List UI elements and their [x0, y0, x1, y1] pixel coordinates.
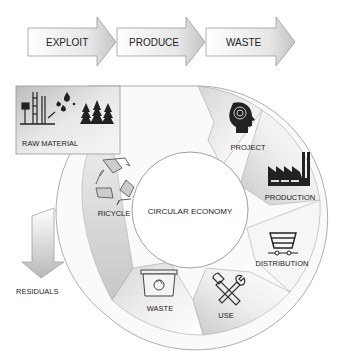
center-label: CIRCULAR ECONOMY [148, 207, 233, 216]
raw-material-box: RAW MATERIAL [16, 86, 120, 154]
process-arrow-label: WASTE [226, 37, 262, 48]
process-arrow-produce: PRODUCE [117, 17, 205, 66]
process-arrow-waste: WASTE [206, 17, 295, 66]
process-arrow-exploit: EXPLOIT [28, 17, 116, 66]
process-arrow-label: EXPLOIT [46, 37, 88, 48]
segment-label-production: PRODUCTION [265, 193, 315, 202]
process-arrow-label: PRODUCE [129, 37, 179, 48]
residuals-label: RESIDUALS [16, 287, 59, 296]
segment-label-use: USE [218, 311, 233, 320]
recycle-bin-icon [141, 270, 177, 296]
segment-label-waste: WASTE [147, 304, 173, 313]
circular-economy-diagram: EXPLOIT PRODUCE WASTE RESIDUALS CIRCULAR… [0, 0, 342, 354]
segment-label-distribution: DISTRIBUTION [256, 259, 309, 268]
segment-label-recycle: RICYCLE [98, 209, 131, 218]
segment-label-project: PROJECT [230, 143, 265, 152]
raw-material-label: RAW MATERIAL [22, 139, 78, 148]
